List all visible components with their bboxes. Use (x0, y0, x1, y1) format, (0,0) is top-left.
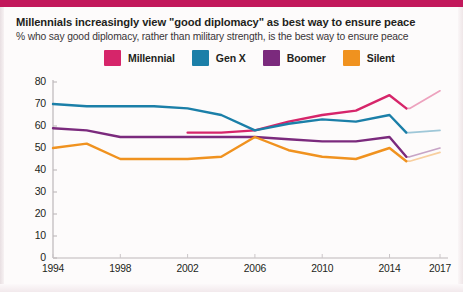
x-axis-tick-label: 1994 (33, 263, 73, 274)
x-axis-tick-label: 2014 (370, 263, 410, 274)
y-axis-tick-label: 40 (20, 163, 46, 175)
y-axis-tick-label: 70 (20, 97, 46, 109)
x-axis-tick-label: 2006 (235, 263, 275, 274)
series-segment-faded (406, 91, 440, 109)
x-axis-tick-label: 1998 (100, 263, 140, 274)
series-line (188, 91, 440, 133)
x-axis-tick-label: 2010 (302, 263, 342, 274)
series-line (53, 104, 440, 133)
x-axis-tick-label: 2002 (168, 263, 208, 274)
y-axis-tick-label: 60 (20, 119, 46, 131)
y-axis-tick-label: 10 (20, 229, 46, 241)
y-axis-tick-label: 50 (20, 141, 46, 153)
series-segment-faded (406, 148, 440, 157)
y-axis-tick-label: 80 (20, 75, 46, 87)
x-axis-tick-label: 2017 (420, 263, 460, 274)
series-segment-solid (53, 104, 406, 133)
series-line (53, 137, 440, 161)
y-axis-tick-label: 20 (20, 207, 46, 219)
y-axis-tick-label: 0 (20, 251, 46, 263)
y-axis-tick-label: 30 (20, 185, 46, 197)
chart-plot-area (0, 0, 463, 292)
chart-page: Millennials increasingly view "good dipl… (0, 0, 463, 292)
series-segment-faded (406, 130, 440, 132)
